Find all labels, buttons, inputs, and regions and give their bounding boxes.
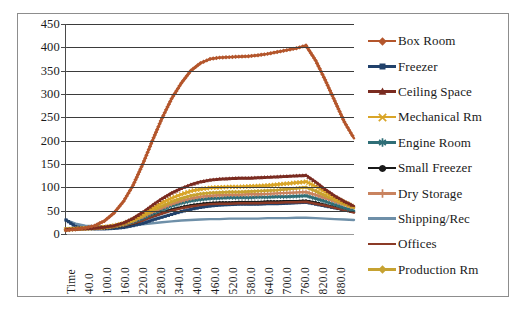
legend-item[interactable]: Mechanical Rm <box>368 104 508 129</box>
y-axis-tick-mark <box>61 187 67 188</box>
gridline <box>66 71 354 72</box>
gridline <box>66 94 354 95</box>
legend-label: Mechanical Rm <box>398 110 482 123</box>
x-axis-tick-label: 520.0 <box>228 267 239 294</box>
gridline <box>66 24 354 25</box>
legend-marker-icon <box>368 59 396 73</box>
y-axis-tick-mark <box>61 24 67 25</box>
y-axis-tick-mark <box>61 234 67 235</box>
y-axis-tick-mark <box>61 141 67 142</box>
x-axis-tick-label: 160.0 <box>120 267 131 294</box>
legend-label: Offices <box>398 237 437 250</box>
y-axis-tick-label: 0 <box>18 228 60 240</box>
legend-label: Ceiling Space <box>398 85 472 98</box>
legend-marker-icon <box>368 186 396 200</box>
x-axis-tick-label: 460.0 <box>210 267 221 294</box>
x-axis: Time40.0100.0160.0220.0280.0340.0400.046… <box>65 236 353 294</box>
gridline <box>66 187 354 188</box>
legend-marker-icon <box>368 262 396 276</box>
legend-marker-icon <box>368 110 396 124</box>
legend-label: Engine Room <box>398 136 471 149</box>
y-axis-tick-mark <box>61 47 67 48</box>
y-axis-tick-label: 450 <box>18 18 60 30</box>
x-axis-tick-label: 280.0 <box>156 267 167 294</box>
gridline <box>66 211 354 212</box>
x-axis-tick-label: 580.0 <box>246 267 257 294</box>
legend-marker-icon <box>368 161 396 175</box>
x-axis-tick-label: 340.0 <box>174 267 185 294</box>
legend-marker-icon <box>368 237 396 251</box>
y-axis-tick-label: 400 <box>18 41 60 53</box>
y-axis-tick-label: 200 <box>18 135 60 147</box>
y-axis-tick-mark <box>61 94 67 95</box>
x-axis-tick-label: 400.0 <box>192 267 203 294</box>
legend-item[interactable]: Small Freezer <box>368 155 508 180</box>
series-canvas <box>66 24 354 234</box>
gridline <box>66 117 354 118</box>
chart-frame: 450400350300250200150100500 Time40.0100.… <box>17 13 509 297</box>
x-axis-tick-label: 760.0 <box>300 267 311 294</box>
x-axis-tick-label: 640.0 <box>264 267 275 294</box>
y-axis-tick-label: 350 <box>18 65 60 77</box>
legend-label: Freezer <box>398 60 438 73</box>
gridline <box>66 141 354 142</box>
legend-label: Small Freezer <box>398 161 472 174</box>
legend-marker-icon <box>368 135 396 149</box>
chart-legend: Box RoomFreezerCeiling SpaceMechanical R… <box>368 28 508 284</box>
x-axis-tick-label: 220.0 <box>138 267 149 294</box>
x-axis-tick-label: 820.0 <box>318 267 329 294</box>
legend-marker-icon <box>368 84 396 98</box>
legend-item[interactable]: Engine Room <box>368 130 508 155</box>
x-axis-tick-label: 700.0 <box>282 267 293 294</box>
legend-marker-icon <box>368 211 396 225</box>
y-axis-tick-label: 50 <box>18 205 60 217</box>
y-axis-tick-label: 300 <box>18 88 60 100</box>
plot-area-wrapper: 450400350300250200150100500 Time40.0100.… <box>18 14 363 296</box>
legend-item[interactable]: Dry Storage <box>368 180 508 205</box>
y-axis-tick-mark <box>61 164 67 165</box>
y-axis-tick-label: 250 <box>18 111 60 123</box>
legend-marker-icon <box>368 34 396 48</box>
y-axis-tick-label: 150 <box>18 158 60 170</box>
y-axis: 450400350300250200150100500 <box>18 24 60 234</box>
legend-item[interactable]: Ceiling Space <box>368 79 508 104</box>
legend-label: Shipping/Rec <box>398 212 470 225</box>
legend-item[interactable]: Production Rm <box>368 257 508 282</box>
gridline <box>66 47 354 48</box>
y-axis-tick-mark <box>61 117 67 118</box>
legend-label: Box Room <box>398 34 456 47</box>
legend-item[interactable]: Box Room <box>368 28 508 53</box>
plot-area <box>65 24 354 235</box>
legend-label: Production Rm <box>398 263 478 276</box>
legend-item[interactable]: Shipping/Rec <box>368 206 508 231</box>
y-axis-tick-mark <box>61 211 67 212</box>
x-axis-tick-label: 100.0 <box>102 267 113 294</box>
gridline <box>66 164 354 165</box>
y-axis-tick-mark <box>61 71 67 72</box>
x-axis-tick-label: Time <box>66 269 77 294</box>
x-axis-tick-label: 880.0 <box>336 267 347 294</box>
x-axis-tick-label: 40.0 <box>84 273 95 294</box>
legend-item[interactable]: Freezer <box>368 53 508 78</box>
y-axis-tick-label: 100 <box>18 181 60 193</box>
legend-label: Dry Storage <box>398 187 462 200</box>
legend-item[interactable]: Offices <box>368 231 508 256</box>
